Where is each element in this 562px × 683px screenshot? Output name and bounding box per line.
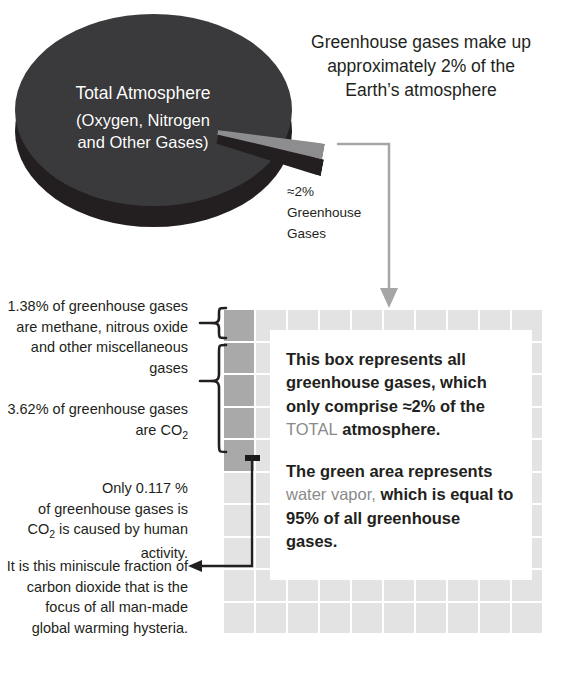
paragraph-1-part-c: atmosphere. [338,420,441,438]
human-co2-text: CO [27,521,49,537]
paragraph-1-part-a: This box represents all greenhouse gases… [286,350,487,415]
paragraph-2-part-a: The green area represents [286,462,492,480]
annotation-methane: 1.38% of greenhouse gases are methane, n… [4,296,188,378]
pie-label-line-3: and Other Gases) [28,131,258,153]
grid-cell [224,603,254,634]
grid-cell [480,603,510,634]
grid-cell [512,603,542,634]
pie-label-line-2: (Oxygen, Nitrogen [28,109,258,131]
headline-line-1: Greenhouse gases make up [283,30,559,54]
grid-cell [256,603,286,634]
headline-line-2: approximately 2% of the [283,54,559,78]
pie-slice-label: Total Atmosphere (Oxygen, Nitrogen and O… [28,82,258,153]
annotation-co2: 3.62% of greenhouse gases are CO2 [4,399,188,443]
grid-cell [448,603,478,634]
paragraph-1-total-emphasis: TOTAL [286,420,338,438]
grid-cell [352,603,382,634]
paragraph-2-water-vapor-emphasis: water vapor, [286,485,376,503]
infographic-canvas: Total Atmosphere (Oxygen, Nitrogen and O… [0,0,562,683]
pie-label-line-1: Total Atmosphere [28,82,258,106]
explanation-paragraph-2: The green area represents water vapor, w… [286,460,516,554]
annotation-human-line-2: of greenhouse gases is [4,499,188,520]
explanation-paragraph-1: This box represents all greenhouse gases… [286,348,516,442]
curly-brace-icons [186,304,234,464]
grid-cell [320,603,350,634]
human-co2-rest: is caused by human [55,521,188,537]
grid-cell [416,603,446,634]
headline-text: Greenhouse gases make up approximately 2… [283,30,559,102]
human-co2-connector-arrow-icon [184,450,268,576]
annotation-focus: It is this miniscule fraction of carbon … [4,556,188,638]
annotation-human-line-1: Only 0.117 % [4,478,188,499]
elbow-arrow-icon [335,138,405,313]
grid-cell [288,603,318,634]
headline-line-3: Earth’s atmosphere [283,78,559,102]
annotation-co2-subscript: 2 [182,429,188,440]
annotation-co2-text: 3.62% of greenhouse gases are CO [7,401,188,438]
annotation-human-line-3: CO2 is caused by human [4,519,188,543]
grid-cell [384,603,414,634]
annotation-human-activity: Only 0.117 % of greenhouse gases is CO2 … [4,478,188,563]
explanation-textbox: This box represents all greenhouse gases… [270,330,532,580]
